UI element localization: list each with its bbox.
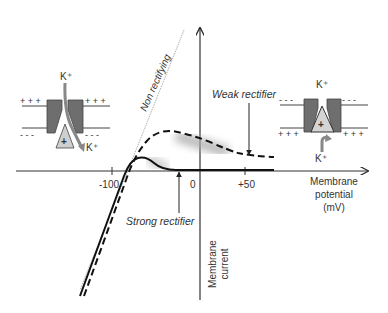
left-blocker-charge: + xyxy=(61,136,67,147)
left-outer-charges-right: + + + xyxy=(85,96,106,106)
left-inner-charges-right: - - - xyxy=(85,130,99,140)
non-rectifying-label: Non rectifying xyxy=(138,52,173,113)
right-inner-charges-right: + + + xyxy=(343,129,364,139)
right-outer-charges-right: - - - xyxy=(342,95,356,105)
x-axis-label-line3: (mV) xyxy=(323,202,345,213)
right-ion-top: K⁺ xyxy=(316,79,328,90)
x-axis-label-line1: Membrane xyxy=(310,176,358,187)
right-inner-charges-left: + + + xyxy=(278,129,299,139)
right-blocker-charge: + xyxy=(318,119,324,130)
y-axis-label-line1: Membrane xyxy=(207,240,218,288)
y-axis-label-line2: current xyxy=(219,248,230,279)
weak-rectifier-curve xyxy=(84,131,274,296)
right-ion-bottom: K⁺ xyxy=(315,153,327,164)
left-channel-schematic: + + + + + + - - - - - - + K⁺ K⁺ xyxy=(20,71,110,153)
iv-diagram: -100 0 +50 Membrane potential (mV) Membr… xyxy=(0,0,388,313)
tick-label-0: 0 xyxy=(190,179,196,190)
x-axis-label-line2: potential xyxy=(315,189,353,200)
weak-rectifier-label: Weak rectifier xyxy=(212,88,276,100)
right-channel-schematic: - - - - - - + + + + + + + K⁺ K⁺ xyxy=(278,79,368,164)
tick-label-minus-100: -100 xyxy=(99,179,119,190)
left-ion-bottom: K⁺ xyxy=(86,142,98,153)
strong-rectifier-label: Strong rectifier xyxy=(126,215,195,227)
tick-label-plus-50: +50 xyxy=(238,179,255,190)
left-outer-charges-left: + + + xyxy=(20,96,41,106)
right-outer-charges-left: - - - xyxy=(279,95,293,105)
left-inner-charges-left: - - - xyxy=(20,130,34,140)
left-ion-top: K⁺ xyxy=(60,71,72,82)
